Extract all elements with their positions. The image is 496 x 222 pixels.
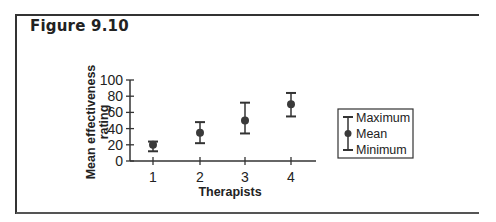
- x-tick-label: 3: [241, 169, 249, 185]
- mean-marker: [287, 100, 295, 108]
- y-axis-title-line: rating: [97, 105, 111, 140]
- mean-marker: [241, 117, 249, 125]
- y-tick-label: 0: [115, 153, 123, 169]
- x-tick-label: 2: [196, 169, 204, 185]
- x-tick-label: 4: [287, 169, 295, 185]
- mean-marker: [196, 129, 204, 137]
- y-axis-title-line: Mean effectiveness: [84, 65, 98, 180]
- y-tick-label: 80: [107, 88, 123, 104]
- y-tick-label: 100: [100, 72, 124, 88]
- x-axis-title: Therapists: [198, 185, 261, 199]
- x-tick-label: 1: [149, 169, 157, 185]
- legend-label-mean: Mean: [356, 127, 387, 141]
- mean-marker: [149, 141, 157, 149]
- legend-label-minimum: Minimum: [356, 143, 407, 157]
- chart-area: 0204060801001234TherapistsMean effective…: [0, 0, 496, 222]
- legend-mean-icon: [345, 130, 352, 137]
- legend-label-maximum: Maximum: [356, 111, 410, 125]
